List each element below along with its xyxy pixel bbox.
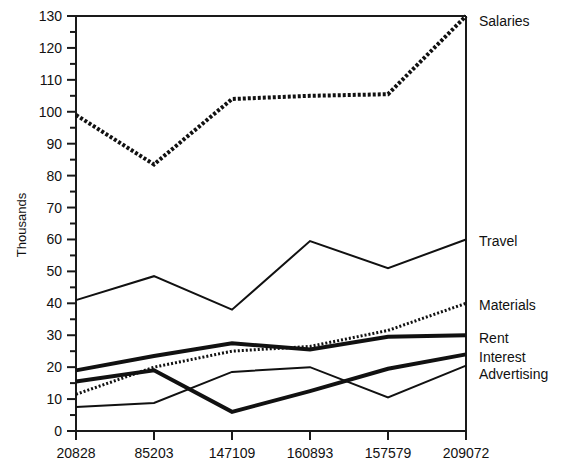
y-tick-label: 90	[46, 136, 62, 152]
y-axis-labels: 0102030405060708090100110120130	[39, 8, 63, 439]
y-tick-label: 10	[46, 391, 62, 407]
series-label-advertising: Advertising	[479, 366, 548, 382]
x-tick-label: 85203	[135, 445, 174, 461]
data-series-group	[76, 16, 466, 412]
series-label-interest: Interest	[479, 349, 526, 365]
series-label-rent: Rent	[479, 330, 509, 346]
y-tick-label: 110	[40, 72, 63, 88]
y-tick-label: 70	[46, 200, 62, 216]
x-tick-label: 20828	[57, 445, 96, 461]
series-label-salaries: Salaries	[479, 13, 530, 29]
y-tick-label: 120	[39, 40, 63, 56]
series-line-travel	[76, 239, 466, 309]
line-chart: 0102030405060708090100110120130 20828852…	[0, 0, 570, 475]
y-axis-ticks	[67, 16, 76, 431]
x-tick-label: 160893	[287, 445, 334, 461]
series-line-materials	[76, 303, 466, 394]
x-axis-ticks	[76, 431, 466, 440]
y-tick-label: 40	[46, 295, 62, 311]
y-tick-label: 100	[39, 104, 63, 120]
y-axis-title: Thousands	[14, 192, 29, 257]
series-label-travel: Travel	[479, 233, 517, 249]
y-tick-label: 30	[46, 327, 62, 343]
y-tick-label: 60	[46, 231, 62, 247]
x-tick-label: 209072	[443, 445, 490, 461]
y-tick-label: 80	[46, 168, 62, 184]
x-axis-labels: 2082885203147109160893157579209072	[57, 445, 490, 461]
y-tick-label: 130	[39, 8, 63, 24]
y-tick-label: 20	[46, 359, 62, 375]
y-tick-label: 50	[46, 263, 62, 279]
series-label-materials: Materials	[479, 297, 536, 313]
series-line-salaries	[76, 16, 466, 164]
y-tick-label: 0	[54, 423, 62, 439]
x-tick-label: 147109	[209, 445, 256, 461]
x-tick-label: 157579	[365, 445, 412, 461]
series-label-group: SalariesTravelMaterialsRentInterestAdver…	[479, 13, 548, 383]
chart-plot-area: 0102030405060708090100110120130 20828852…	[0, 0, 570, 475]
